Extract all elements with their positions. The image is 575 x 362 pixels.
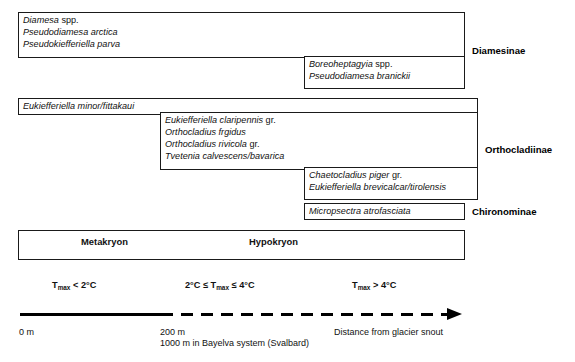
axis-line-dashed-segment: [161, 313, 449, 316]
taxa-box-orthocladiinae-lower: Chaetocladius piger gr. Eukiefferiella b…: [304, 167, 478, 200]
subfamily-label-chironominae: Chironominae: [472, 206, 537, 217]
taxa-entry: Boreoheptagyia spp.: [305, 57, 464, 71]
temp-subscript: max: [58, 284, 71, 291]
zone-label-hypokryon: Hypokryon: [249, 236, 298, 247]
axis-tick-label-two-hundred: 200 m: [160, 327, 185, 337]
taxa-entry: Orthocladius rivicola gr.: [161, 139, 477, 151]
taxon-name-italic: Tvetenia calvescens/bavarica: [165, 151, 284, 161]
taxon-name-italic: Boreoheptagyia: [309, 59, 373, 69]
temp-suffix: > 4°C: [370, 280, 396, 290]
taxa-entry: Pseudodiamesa arctica: [19, 27, 464, 39]
axis-title: Distance from glacier snout: [334, 327, 443, 337]
temperature-label-metakryon: Tmax < 2°C: [52, 280, 96, 290]
taxon-name-italic: Chaetocladius piger: [309, 170, 389, 180]
temp-subscript: max: [216, 284, 229, 291]
axis-arrowhead-icon: [447, 308, 462, 320]
taxa-entry: Eukiefferiella minor/fittakaui: [19, 99, 477, 113]
temp-prefix: T: [352, 280, 358, 290]
temperature-label-hypokryon-lower: 2°C ≤ Tmax ≤ 4°C: [185, 280, 255, 290]
taxon-qualifier: spp.: [373, 59, 393, 69]
taxon-name-italic: Micropsectra atrofasciata: [309, 206, 411, 216]
taxon-qualifier: spp.: [59, 15, 79, 25]
taxa-box-diamesinae-lower: Boreoheptagyia spp. Pseudodiamesa branic…: [304, 56, 465, 89]
temp-suffix: ≤ 4°C: [229, 280, 255, 290]
taxon-name-italic: Pseudokiefferiella parva: [23, 39, 120, 49]
temp-suffix: < 2°C: [70, 280, 96, 290]
axis-tick-label-zero: 0 m: [19, 327, 34, 337]
subfamily-label-orthocladiinae: Orthocladiinae: [485, 144, 552, 155]
taxa-entry: Micropsectra atrofasciata: [305, 204, 464, 218]
taxon-name-italic: Eukiefferiella claripennis: [165, 115, 263, 125]
axis-line-solid-segment: [20, 313, 161, 316]
taxa-entry: Tvetenia calvescens/bavarica: [161, 151, 477, 163]
taxa-entry: Pseudodiamesa branickii: [305, 71, 464, 83]
temperature-label-hypokryon-upper: Tmax > 4°C: [352, 280, 396, 290]
taxon-name-italic: Eukiefferiella minor/fittakaui: [23, 101, 134, 111]
glacial-stream-chironomid-diagram: Diamesa spp. Pseudodiamesa arctica Pseud…: [0, 0, 575, 362]
taxon-name-italic: Orthocladius rivicola: [165, 139, 247, 149]
zonation-bar: Metakryon Hypokryon: [18, 230, 465, 260]
taxon-qualifier: gr.: [389, 170, 402, 180]
taxon-name-italic: Eukiefferiella brevicalcar/tirolensis: [309, 182, 446, 192]
zone-label-metakryon: Metakryon: [81, 236, 128, 247]
axis-tick-note-bayelva: 1000 m in Bayelva system (Svalbard): [160, 338, 309, 348]
taxa-box-orthocladiinae-middle: Eukiefferiella claripennis gr. Orthoclad…: [160, 112, 478, 170]
subfamily-label-diamesinae: Diamesinae: [472, 45, 525, 56]
taxa-entry: Orthocladius frgidus: [161, 127, 477, 139]
taxa-entry: Chaetocladius piger gr.: [305, 168, 477, 182]
taxon-name-italic: Orthocladius frgidus: [165, 127, 246, 137]
taxon-name-italic: Pseudodiamesa branickii: [309, 71, 410, 81]
taxa-box-chironominae: Micropsectra atrofasciata: [304, 203, 465, 220]
temp-subscript: max: [358, 284, 371, 291]
taxa-entry: Pseudokiefferiella parva: [19, 39, 464, 51]
taxon-name-italic: Pseudodiamesa arctica: [23, 27, 118, 37]
temp-prefix: T: [52, 280, 58, 290]
taxon-qualifier: gr.: [247, 139, 260, 149]
taxa-entry: Eukiefferiella brevicalcar/tirolensis: [305, 182, 477, 194]
taxon-qualifier: gr.: [263, 115, 276, 125]
taxon-name-italic: Diamesa: [23, 15, 59, 25]
taxa-box-diamesinae-upper: Diamesa spp. Pseudodiamesa arctica Pseud…: [18, 12, 465, 58]
taxa-entry: Eukiefferiella claripennis gr.: [161, 113, 477, 127]
temp-prefix: 2°C ≤ T: [185, 280, 216, 290]
taxa-entry: Diamesa spp.: [19, 13, 464, 27]
